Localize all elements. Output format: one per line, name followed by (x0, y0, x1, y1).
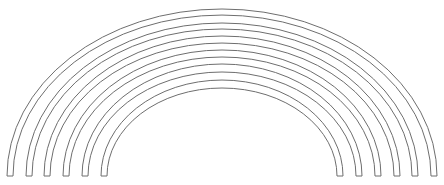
arc-bands (7, 9, 437, 176)
rainbow-arcs-diagram (0, 0, 444, 185)
